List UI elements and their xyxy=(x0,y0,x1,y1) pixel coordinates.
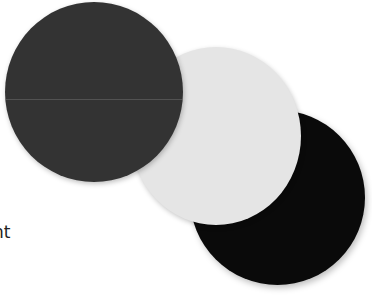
color-swatch-canvas: nt xyxy=(0,0,372,296)
cropped-caption-text: nt xyxy=(0,224,10,241)
disc-seam-line xyxy=(5,99,183,100)
dark-gray-disc xyxy=(5,2,183,182)
